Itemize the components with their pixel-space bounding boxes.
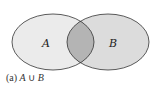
union-operator: ∪ — [28, 72, 35, 83]
caption-right-set: B — [38, 72, 44, 83]
caption-left-set: A — [20, 72, 26, 83]
set-b-label: B — [108, 37, 117, 50]
figure-caption: (a) A ∪ B — [6, 72, 44, 83]
caption-prefix: (a) — [6, 72, 17, 83]
set-a-label: A — [41, 37, 50, 50]
